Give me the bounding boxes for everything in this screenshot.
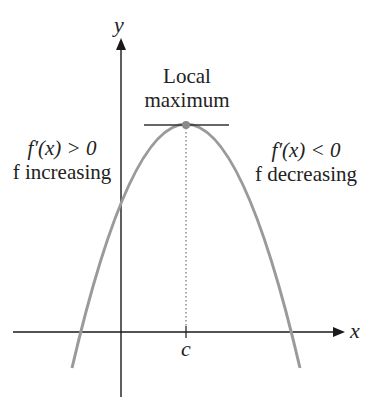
decreasing-annotation: f′(x) < 0 f decreasing xyxy=(244,138,368,186)
y-axis-label: y xyxy=(114,12,124,38)
x-axis-arrow-icon xyxy=(333,327,345,337)
tick-label-c: c xyxy=(181,336,191,362)
y-axis-arrow-icon xyxy=(116,38,126,50)
left-derivative-text: f′(x) > 0 xyxy=(4,136,120,160)
local-maximum-line1: Local xyxy=(137,64,237,88)
x-axis-label: x xyxy=(350,318,360,344)
right-behavior-text: f decreasing xyxy=(244,162,368,186)
increasing-annotation: f′(x) > 0 f increasing xyxy=(4,136,120,184)
right-derivative-text: f′(x) < 0 xyxy=(244,138,368,162)
local-max-point xyxy=(182,121,190,129)
local-maximum-label: Local maximum xyxy=(137,64,237,112)
local-maximum-line2: maximum xyxy=(137,88,237,112)
left-behavior-text: f increasing xyxy=(4,160,120,184)
